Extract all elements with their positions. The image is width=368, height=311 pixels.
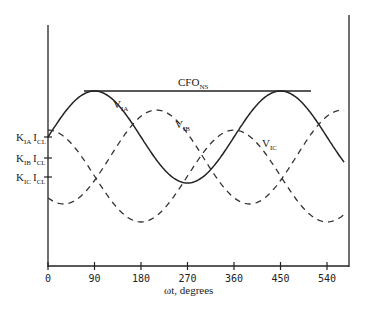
x-tick-label: 270 — [178, 273, 196, 284]
series-label-v-ia: VIA — [113, 98, 128, 113]
y-label-kic: KICICL — [16, 171, 46, 186]
series-label-v-ib: VIB — [175, 118, 190, 133]
x-tick-label: 90 — [88, 273, 100, 284]
x-tick-label: 540 — [318, 273, 336, 284]
series-v-ib — [48, 110, 344, 204]
cfo-label: CFONS — [178, 76, 208, 91]
x-ticks: 090180270360450540 — [45, 262, 336, 284]
series-label-v-ic: VIC — [262, 137, 277, 152]
x-tick-label: 360 — [225, 273, 243, 284]
series-v-ic — [48, 130, 344, 222]
x-axis-label: ωt, degrees — [164, 284, 213, 296]
series-v-ia — [48, 91, 344, 183]
y-label-kia: KIAICL — [16, 131, 46, 146]
x-tick-label: 0 — [45, 273, 51, 284]
y-label-kib: KIBICL — [16, 152, 46, 167]
chart: 090180270360450540 KIAICL KIBICL KICICL … — [0, 0, 368, 311]
x-tick-label: 180 — [132, 273, 150, 284]
x-tick-label: 450 — [271, 273, 289, 284]
